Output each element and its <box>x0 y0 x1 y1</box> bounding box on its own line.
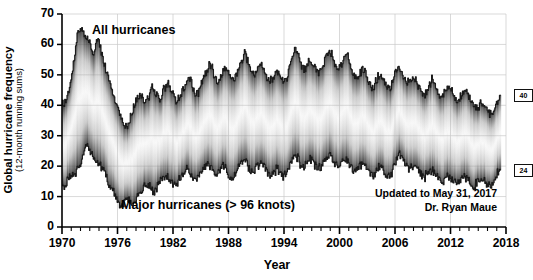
update-note: Updated to May 31, 2017 <box>375 187 497 200</box>
y-tick-label-50: 50 <box>28 67 54 81</box>
x-tick-label-1988: 1988 <box>206 236 252 250</box>
y-tick-label-10: 10 <box>28 189 54 203</box>
y-tick-label-40: 40 <box>28 97 54 111</box>
y-tick-label-70: 70 <box>28 6 54 20</box>
major-hurricanes-end-value: 24 <box>514 164 533 177</box>
x-tick-label-2012: 2012 <box>428 236 474 250</box>
author-note: Dr. Ryan Maue <box>425 201 497 214</box>
x-tick-label-2018: 2018 <box>483 236 529 250</box>
x-tick-label-1970: 1970 <box>39 236 85 250</box>
y-tick-label-20: 20 <box>28 158 54 172</box>
all-hurricanes-end-value: 40 <box>514 89 533 102</box>
y-axis-title-main: Global hurricane frequency <box>2 47 14 194</box>
all-hurricanes-label: All hurricanes <box>92 23 175 37</box>
x-tick-label-2000: 2000 <box>317 236 363 250</box>
y-tick-label-0: 0 <box>28 219 54 233</box>
y-axis-title-sub: (12-month running sums) <box>14 47 24 194</box>
x-tick-label-1976: 1976 <box>95 236 141 250</box>
y-tick-label-30: 30 <box>28 128 54 142</box>
x-tick-label-2006: 2006 <box>372 236 418 250</box>
y-tick-label-60: 60 <box>28 36 54 50</box>
y-axis-title: Global hurricane frequency (12-month run… <box>0 0 28 240</box>
x-axis-title: Year <box>217 258 337 272</box>
x-tick-label-1982: 1982 <box>150 236 196 250</box>
x-tick-label-1994: 1994 <box>261 236 307 250</box>
major-hurricanes-label: Major hurricanes (> 96 knots) <box>121 198 295 212</box>
hurricane-frequency-chart: Global hurricane frequency (12-month run… <box>0 0 533 280</box>
